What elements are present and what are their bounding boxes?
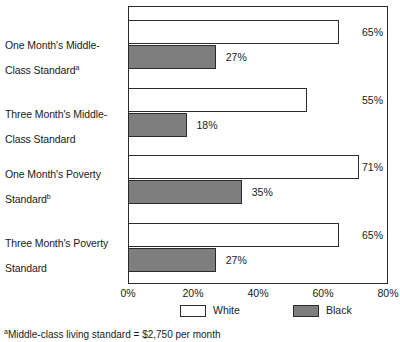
value-label-black-1: 18% [197, 119, 218, 131]
bar-white-1 [128, 88, 307, 112]
bar-white-3 [128, 223, 339, 247]
category-label-2: One Month's Poverty Standardb [5, 156, 123, 205]
bar-black-3 [128, 248, 216, 272]
value-label-white-2: 71% [362, 161, 383, 173]
category-label-0: One Month's Middle- Class Standarda [5, 27, 123, 76]
bar-black-0 [128, 45, 216, 69]
bar-white-2 [128, 155, 359, 179]
chart-legend: White Black [0, 304, 400, 320]
legend-label-black: Black [326, 304, 352, 317]
xtick-label-3: 60% [303, 287, 343, 299]
category-label-0-line-2: Class Standard [5, 64, 75, 76]
category-label-2-footnote-mark: b [47, 192, 51, 199]
chart-footnote: aMiddle-class living standard = $2,750 p… [4, 329, 221, 341]
category-label-3: Three Month's Poverty Standard [5, 225, 123, 274]
xtick-label-0: 0% [108, 287, 148, 299]
category-label-1-line-2: Class Standard [5, 133, 75, 145]
legend-swatch-black-icon [293, 305, 319, 317]
category-label-0-footnote-mark: a [75, 63, 79, 70]
category-label-2-line-1: One Month's Poverty [5, 168, 101, 180]
category-label-0-line-1: One Month's Middle- [5, 39, 100, 51]
xtick-label-2: 40% [238, 287, 278, 299]
category-label-1: Three Month's Middle- Class Standard [5, 96, 123, 145]
legend-label-white: White [213, 304, 240, 317]
value-label-white-3: 65% [362, 229, 383, 241]
value-label-black-0: 27% [226, 51, 247, 63]
xtick-label-1: 20% [173, 287, 213, 299]
category-label-2-line-2: Standard [5, 193, 47, 205]
bar-chart: One Month's Middle- Class Standarda Thre… [0, 0, 400, 342]
bar-black-2 [128, 180, 242, 204]
value-label-black-2: 35% [252, 186, 273, 198]
value-label-white-0: 65% [362, 26, 383, 38]
footnote-text: Middle-class living standard = $2,750 pe… [8, 329, 221, 340]
category-label-3-line-2: Standard [5, 262, 47, 274]
category-label-1-line-1: Three Month's Middle- [5, 108, 107, 120]
bar-white-0 [128, 20, 339, 44]
legend-swatch-white-icon [180, 305, 206, 317]
xtick-label-4: 80% [368, 287, 400, 299]
value-label-white-1: 55% [362, 94, 383, 106]
value-label-black-3: 27% [226, 254, 247, 266]
bar-black-1 [128, 113, 187, 137]
category-label-3-line-1: Three Month's Poverty [5, 237, 108, 249]
